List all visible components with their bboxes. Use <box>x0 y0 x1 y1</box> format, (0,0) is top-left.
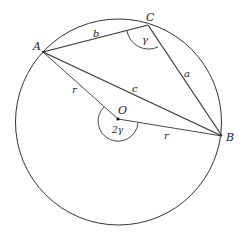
label-O: O <box>118 104 127 117</box>
label-side-a: a <box>184 68 190 79</box>
radius-OA <box>43 52 118 119</box>
label-A: A <box>32 40 41 53</box>
inscribed-angle-diagram: A C B O b a c r r γ 2γ <box>0 0 243 238</box>
label-angle-gamma: γ <box>142 34 148 45</box>
circumcircle <box>16 19 222 225</box>
label-side-c: c <box>132 83 138 94</box>
side-a <box>148 25 222 136</box>
label-C: C <box>146 11 155 24</box>
side-c <box>43 52 222 136</box>
label-radius-OA: r <box>72 84 78 95</box>
label-B: B <box>225 131 234 144</box>
label-radius-OB: r <box>164 130 170 141</box>
label-angle-2gamma: 2γ <box>111 125 124 135</box>
label-side-b: b <box>93 28 99 39</box>
vertex-A-dot <box>42 51 44 53</box>
center-point <box>116 117 119 120</box>
